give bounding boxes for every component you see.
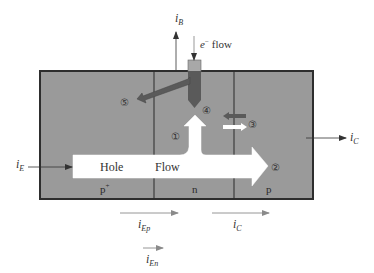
marker-1: ①	[171, 131, 180, 142]
bjt-diagram: ① ② ③ ④ ⑤ Hole Flow p+ n p iB e−flow iC …	[0, 0, 374, 273]
marker-2: ②	[271, 162, 280, 173]
emitter-electron-current-label: iEn	[146, 252, 158, 268]
base-current-label: iB	[175, 11, 183, 27]
emitter-hole-current-label: iEp	[138, 217, 150, 233]
base-contact-top	[188, 60, 201, 72]
marker-3: ③	[248, 119, 257, 130]
marker-4: ④	[202, 105, 211, 116]
hole-label: Hole	[100, 160, 123, 174]
collector-region-label: p	[266, 183, 272, 195]
base-region-label: n	[192, 183, 198, 195]
electron-flow-label: e−flow	[200, 38, 232, 50]
collector-component-current-label: iC	[233, 217, 242, 233]
marker-5: ⑤	[120, 97, 129, 108]
emitter-current-label: iE	[16, 157, 24, 173]
collector-current-label: iC	[350, 130, 359, 146]
flow-label: Flow	[155, 160, 180, 174]
